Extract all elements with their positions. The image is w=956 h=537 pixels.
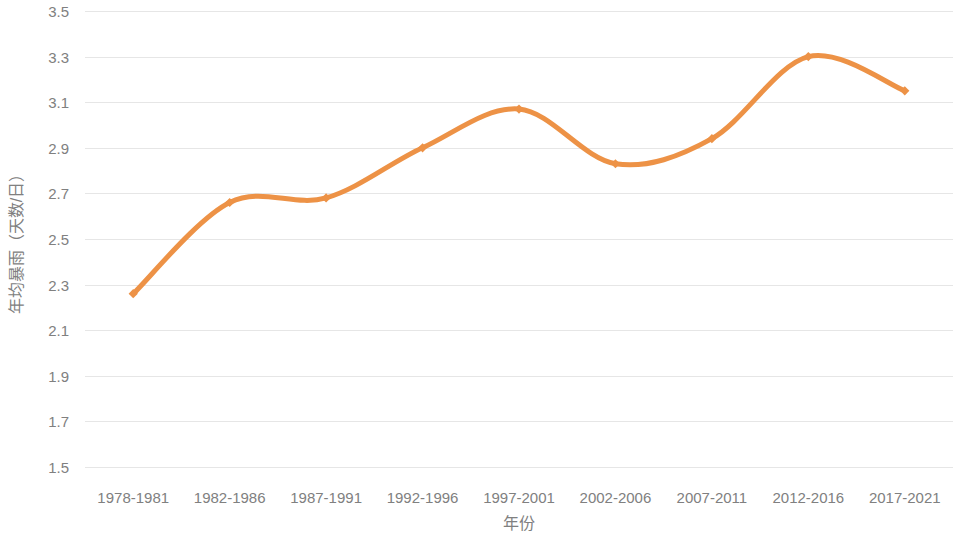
gridline — [85, 11, 953, 12]
y-tick-label: 2.3 — [9, 277, 69, 292]
x-tick-label: 1978-1981 — [97, 489, 169, 506]
gridline — [85, 57, 953, 58]
line-chart: 年均暴雨（天数/日） 3.53.33.12.92.72.52.32.11.91.… — [0, 0, 956, 537]
x-axis-title: 年份 — [85, 510, 953, 534]
y-tick-label: 1.5 — [9, 460, 69, 475]
y-tick-label: 3.5 — [9, 4, 69, 19]
gridline — [85, 467, 953, 468]
y-tick-label: 3.1 — [9, 95, 69, 110]
gridline — [85, 285, 953, 286]
plot-area: 3.53.33.12.92.72.52.32.11.91.71.51978-19… — [85, 11, 953, 467]
x-tick-label: 2007-2011 — [677, 489, 748, 506]
y-tick-label: 1.9 — [9, 368, 69, 383]
gridline — [85, 330, 953, 331]
gridline — [85, 193, 953, 194]
gridline — [85, 148, 953, 149]
gridline — [85, 102, 953, 103]
x-tick-label: 1987-1991 — [290, 489, 362, 506]
x-tick-label: 2002-2006 — [580, 489, 652, 506]
gridline — [85, 421, 953, 422]
gridline — [85, 376, 953, 377]
x-tick-label: 1992-1996 — [387, 489, 459, 506]
x-tick-label: 1982-1986 — [194, 489, 266, 506]
y-tick-label: 1.7 — [9, 414, 69, 429]
y-tick-label: 2.7 — [9, 186, 69, 201]
x-tick-label: 2012-2016 — [772, 489, 844, 506]
y-tick-label: 2.5 — [9, 232, 69, 247]
y-tick-label: 2.9 — [9, 140, 69, 155]
x-tick-label: 1997-2001 — [483, 489, 555, 506]
x-tick-label: 2017-2021 — [869, 489, 941, 506]
y-tick-label: 2.1 — [9, 323, 69, 338]
gridline — [85, 239, 953, 240]
y-tick-label: 3.3 — [9, 49, 69, 64]
